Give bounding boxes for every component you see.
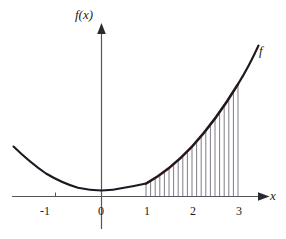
x-axis-arrowhead xyxy=(258,192,270,201)
x-tick-label-1: 1 xyxy=(140,205,154,217)
x-tick-label--1: -1 xyxy=(37,205,53,217)
x-axis-label: x xyxy=(270,189,276,202)
riemann-strip-group xyxy=(146,84,238,196)
y-axis-label: f(x) xyxy=(75,8,93,21)
x-tick-label-3: 3 xyxy=(232,205,246,217)
x-tick-label-2: 2 xyxy=(186,205,200,217)
riemann-sum-figure: f(x) x f -1 0 1 2 3 xyxy=(0,0,286,239)
y-axis-arrowhead xyxy=(97,23,106,34)
x-tick-label-0: 0 xyxy=(94,205,108,217)
function-curve xyxy=(14,46,259,191)
curve-label: f xyxy=(259,44,263,57)
